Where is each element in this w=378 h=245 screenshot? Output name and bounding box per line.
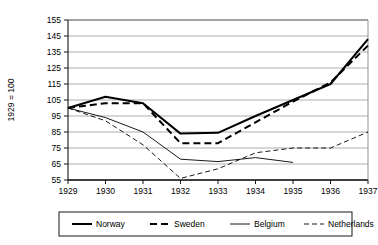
legend-label-sweden: Sweden (174, 219, 205, 229)
y-tick-label: 135 (47, 47, 61, 57)
y-axis-title: 1929 = 100 (6, 78, 16, 121)
y-tick-label: 125 (47, 63, 61, 73)
x-tick-label: 1937 (359, 186, 378, 196)
x-tick-label: 1935 (284, 186, 303, 196)
legend-label-norway: Norway (96, 219, 126, 229)
y-tick-label: 145 (47, 31, 61, 41)
y-tick-label: 75 (52, 143, 62, 153)
x-axis-tick-labels: 192919301931193219331934193519361937 (59, 186, 378, 196)
x-tick-label: 1930 (96, 186, 115, 196)
x-tick-label: 1933 (209, 186, 228, 196)
y-tick-label: 115 (47, 79, 61, 89)
legend-label-netherlands: Netherlands (328, 219, 374, 229)
x-tick-label: 1934 (246, 186, 265, 196)
x-tick-label: 1929 (59, 186, 78, 196)
y-tick-label: 55 (52, 175, 62, 185)
chart-container: 5565758595105115125135145155 19291930193… (0, 0, 378, 245)
legend: NorwaySwedenBelgiumNetherlands (59, 212, 374, 236)
x-tick-label: 1931 (134, 186, 153, 196)
y-tick-label: 85 (52, 127, 62, 137)
y-tick-label: 95 (52, 111, 62, 121)
x-tick-label: 1932 (171, 186, 190, 196)
x-tick-label: 1936 (321, 186, 340, 196)
legend-label-belgium: Belgium (254, 219, 285, 229)
y-tick-label: 155 (47, 15, 61, 25)
line-chart: 5565758595105115125135145155 19291930193… (0, 0, 378, 245)
y-tick-label: 65 (52, 159, 62, 169)
y-tick-label: 105 (47, 95, 61, 105)
